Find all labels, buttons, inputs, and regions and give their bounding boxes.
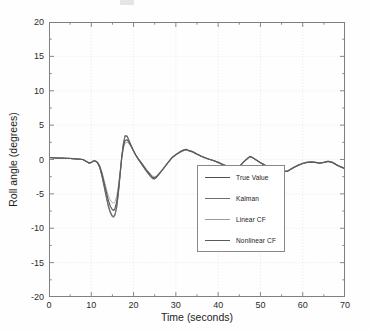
y-tick-label: 20 [0, 17, 44, 27]
legend-label: Nonlinear CF [236, 237, 276, 244]
y-tick-label: 0 [0, 155, 44, 165]
x-tick-label: 60 [298, 300, 308, 310]
y-tick-label: 15 [0, 51, 44, 61]
x-axis-label: Time (seconds) [49, 311, 345, 323]
x-tick-label: 70 [340, 300, 350, 310]
plot-area [49, 22, 345, 297]
legend-item-nonlinear-cf[interactable]: Nonlinear CF [198, 230, 284, 251]
legend-label: True Value [236, 174, 269, 181]
x-tick-label: 10 [86, 300, 96, 310]
x-tick-label: 40 [213, 300, 223, 310]
legend-item-kalman[interactable]: Kalman [198, 188, 284, 209]
legend-label: Linear CF [236, 216, 266, 223]
x-tick-label: 0 [46, 300, 51, 310]
legend-box[interactable]: True ValueKalmanLinear CFNonlinear CF [197, 165, 285, 252]
legend-item-true-value[interactable]: True Value [198, 167, 284, 188]
y-tick-label: -15 [0, 258, 44, 268]
x-tick-label: 20 [129, 300, 139, 310]
figure-canvas: Roll angle (degrees) Time (seconds) 2015… [0, 0, 370, 331]
x-tick-label: 50 [255, 300, 265, 310]
y-tick-label: -10 [0, 223, 44, 233]
legend-line-swatch [205, 198, 230, 199]
legend-line-swatch [205, 219, 230, 220]
x-tick-label: 30 [171, 300, 181, 310]
legend-item-linear-cf[interactable]: Linear CF [198, 209, 284, 230]
y-tick-label: 5 [0, 120, 44, 130]
series-canvas [49, 22, 345, 297]
y-tick-label: -20 [0, 292, 44, 302]
y-tick-label: -5 [0, 189, 44, 199]
legend-label: Kalman [236, 195, 259, 202]
y-tick-label: 10 [0, 86, 44, 96]
top-artifact [120, 0, 134, 5]
legend-line-swatch [205, 240, 230, 241]
legend-line-swatch [205, 177, 230, 178]
